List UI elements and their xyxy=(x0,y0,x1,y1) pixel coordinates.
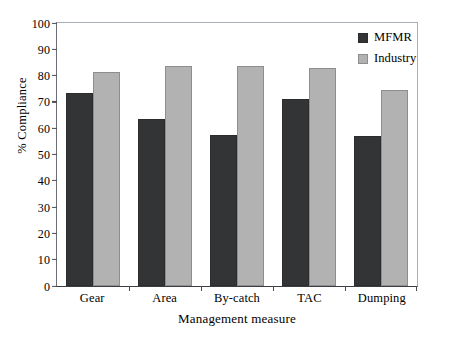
x-axis-tick-label: TAC xyxy=(273,291,345,306)
y-axis-tick: 80 xyxy=(1,75,57,76)
y-axis-tick-label: 30 xyxy=(38,201,50,213)
y-axis-tick-label: 60 xyxy=(38,122,50,134)
y-axis-tick: 40 xyxy=(1,180,57,181)
bar-group xyxy=(273,23,345,286)
y-axis-tick: 20 xyxy=(1,233,57,234)
bar-industry-tac xyxy=(309,68,336,286)
y-axis-tick-label: 40 xyxy=(38,175,50,187)
bar-industry-area xyxy=(165,66,192,286)
legend-item-industry: Industry xyxy=(358,50,416,67)
y-axis-tick-label: 100 xyxy=(32,17,50,29)
y-axis-tick: 10 xyxy=(1,259,57,260)
y-axis-tick-label: 70 xyxy=(38,96,50,108)
legend-item-label: MFMR xyxy=(374,30,412,45)
x-axis-tick-labels: GearAreaBy-catchTACDumping xyxy=(56,291,418,306)
y-axis-tick-label: 20 xyxy=(38,227,50,239)
y-axis-tick-label: 0 xyxy=(44,280,50,292)
legend: MFMRIndustry xyxy=(358,29,416,71)
y-axis-tick-label: 80 xyxy=(38,70,50,82)
legend-swatch-icon xyxy=(358,33,368,43)
y-axis-tick: 100 xyxy=(1,23,57,24)
legend-item-label: Industry xyxy=(374,51,416,66)
bar-mfmr-area xyxy=(138,119,165,286)
bar-group xyxy=(201,23,273,286)
x-axis-title: Management measure xyxy=(56,311,418,327)
x-axis-tick-label: By-catch xyxy=(201,291,273,306)
y-axis-tick: 70 xyxy=(1,101,57,102)
y-axis-title: % Compliance xyxy=(15,36,30,196)
bar-mfmr-gear xyxy=(66,93,93,286)
legend-item-mfmr: MFMR xyxy=(358,29,416,46)
bar-group xyxy=(129,23,201,286)
bar-mfmr-dumping xyxy=(354,136,381,286)
y-axis-tick: 0 xyxy=(1,286,57,287)
bar-industry-gear xyxy=(93,72,120,286)
y-axis-tick-label: 50 xyxy=(38,149,50,161)
y-axis-tick: 90 xyxy=(1,49,57,50)
bar-industry-by-catch xyxy=(237,66,264,286)
y-axis-tick: 30 xyxy=(1,207,57,208)
x-axis-tick-label: Dumping xyxy=(346,291,418,306)
legend-swatch-icon xyxy=(358,54,368,64)
x-axis-tick-label: Area xyxy=(128,291,200,306)
bar-mfmr-by-catch xyxy=(210,135,237,286)
bar-group xyxy=(57,23,129,286)
y-axis-tick: 50 xyxy=(1,154,57,155)
y-axis-tick-label: 10 xyxy=(38,254,50,266)
y-axis-tick-label: 90 xyxy=(38,43,50,55)
bar-mfmr-tac xyxy=(282,99,309,286)
x-axis-tick-label: Gear xyxy=(56,291,128,306)
bar-chart: % Compliance 0102030405060708090100 Gear… xyxy=(0,0,456,338)
y-axis-tick: 60 xyxy=(1,128,57,129)
bar-industry-dumping xyxy=(381,90,408,286)
